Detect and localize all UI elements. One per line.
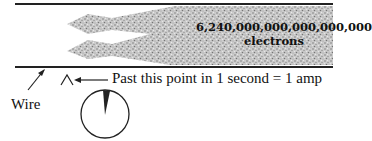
point-marker-icon <box>61 75 73 85</box>
electron-count-label: 6,240,000,000,000,000,000 electrons <box>196 20 346 48</box>
wire-label: Wire <box>11 96 40 113</box>
clock-icon <box>81 90 129 138</box>
electron-count-value: 6,240,000,000,000,000,000 <box>196 20 372 34</box>
wire-pointer-arrow <box>28 69 45 90</box>
point-label: Past this point in 1 second = 1 amp <box>112 70 322 87</box>
electron-unit-label: electrons <box>196 34 346 48</box>
point-pointer-arrow <box>74 77 108 83</box>
